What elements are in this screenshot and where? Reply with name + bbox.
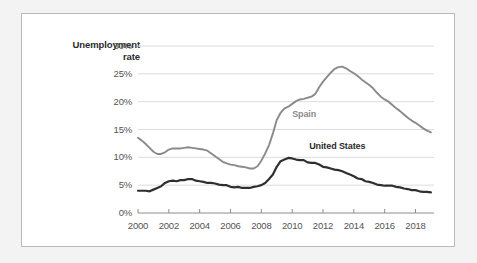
y-axis-tick-label: 15% (98, 124, 132, 135)
series-line-spain (138, 67, 431, 169)
chart-panel: Unemployment rate 0%5%10%15%20%25%30% 20… (21, 13, 455, 247)
x-axis-tick-label: 2012 (306, 220, 340, 231)
series-label-spain: Spain (292, 109, 316, 119)
series-line-united-states (138, 158, 431, 193)
x-axis-tick-label: 2002 (152, 220, 186, 231)
x-axis-tick-label: 2000 (121, 220, 155, 231)
x-axis-tick-label: 2016 (368, 220, 402, 231)
y-axis-tick-label: 25% (98, 68, 132, 79)
y-axis-tick-label: 0% (98, 207, 132, 218)
x-axis-tick-label: 2006 (214, 220, 248, 231)
x-axis-tick-label: 2014 (337, 220, 371, 231)
plot-area (22, 14, 456, 248)
x-axis-tick-label: 2010 (275, 220, 309, 231)
figure-root: Unemployment rate 0%5%10%15%20%25%30% 20… (0, 0, 477, 263)
y-axis-tick-label: 10% (98, 151, 132, 162)
y-axis-tick-label: 30% (98, 40, 132, 51)
x-axis-tick-label: 2004 (183, 220, 217, 231)
x-axis-tick-label: 2018 (399, 220, 433, 231)
y-axis-tick-label: 5% (98, 179, 132, 190)
y-axis-tick-label: 20% (98, 96, 132, 107)
x-axis-tick-label: 2008 (244, 220, 278, 231)
series-label-united-states: United States (309, 141, 365, 151)
